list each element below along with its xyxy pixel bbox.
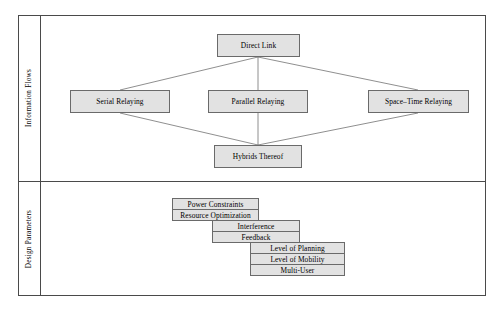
rail-label-text: Information Flows <box>25 69 33 127</box>
node-label: Resource Optimization <box>180 211 250 220</box>
node-multi-user[interactable]: Multi-User <box>250 264 345 276</box>
node-label: Hybrids Thereof <box>233 152 283 161</box>
rail-label-information-flows: Information Flows <box>18 15 40 181</box>
node-label: Power Constraints <box>187 200 243 209</box>
node-label: Parallel Relaying <box>232 97 285 106</box>
node-label: Interference <box>238 222 275 231</box>
node-parallel-relaying[interactable]: Parallel Relaying <box>208 90 308 113</box>
rail-label-design-parameters: Design Parameters <box>18 181 40 296</box>
node-space-time-relaying[interactable]: Space–Time Relaying <box>368 90 469 113</box>
diagram-canvas: Direct Link Serial Relaying Parallel Rel… <box>0 0 504 311</box>
rail-label-text: Design Parameters <box>25 209 33 267</box>
node-direct-link[interactable]: Direct Link <box>217 34 300 57</box>
node-label: Level of Planning <box>270 244 325 253</box>
node-serial-relaying[interactable]: Serial Relaying <box>70 90 170 113</box>
node-label: Space–Time Relaying <box>385 97 452 106</box>
node-label: Direct Link <box>241 41 276 50</box>
node-label: Multi-User <box>281 266 315 275</box>
node-label: Feedback <box>241 233 270 242</box>
node-hybrids-thereof[interactable]: Hybrids Thereof <box>214 145 302 168</box>
node-label: Serial Relaying <box>96 97 143 106</box>
node-label: Level of Mobility <box>270 255 324 264</box>
section-label-rail: Information Flows Design Parameters <box>18 15 41 296</box>
section-divider <box>18 181 486 182</box>
